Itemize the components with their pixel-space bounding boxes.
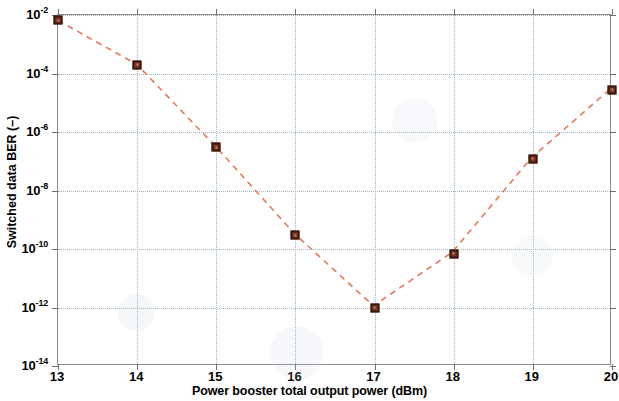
marker-core [136,64,138,66]
y-axis-tick-label: 10-4 [26,65,48,80]
y-axis-tick-right [610,249,616,250]
marker-core [611,89,613,91]
data-point-marker [528,154,537,163]
y-axis-tick-label: 10-14 [22,358,48,373]
y-axis-tick-label: 10-10 [22,241,48,256]
x-axis-tick-label: 17 [366,369,380,384]
chart-figure: 10-210-410-610-810-1010-1210-14 13141516… [0,0,619,401]
x-axis-tick-label: 14 [129,369,143,384]
y-axis-title: Switched data BER (–) [5,22,19,342]
y-axis-tick-right [610,366,616,367]
x-axis-tick-label: 18 [445,369,459,384]
y-axis-tick-label: 10-12 [22,299,48,314]
data-point-marker [370,303,379,312]
x-axis-tick-top [612,9,613,15]
plot-area [57,14,611,365]
y-axis-tick-right [610,191,616,192]
y-axis-tick-right [610,308,616,309]
y-axis-tick-label: 10-8 [26,182,48,197]
x-axis-title: Power booster total output power (dBm) [0,384,619,398]
x-axis-tick-label: 20 [604,369,618,384]
data-point-marker [54,16,63,25]
y-axis-tick-label: 10-6 [26,124,48,139]
y-axis-tick-right [610,74,616,75]
x-axis-tick-label: 13 [50,369,64,384]
x-axis-tick-label: 19 [525,369,539,384]
x-axis-tick-label: 15 [208,369,222,384]
marker-core [57,19,59,21]
y-axis-tick-label: 10-2 [26,7,48,22]
marker-core [215,146,217,148]
data-point-marker [212,143,221,152]
data-point-marker [608,85,617,94]
marker-core [453,253,455,255]
marker-core [532,158,534,160]
data-point-marker [449,249,458,258]
data-point-marker [133,60,142,69]
y-axis-title-wrapper: Switched data BER (–) [2,0,24,401]
marker-core [294,234,296,236]
y-axis-tick-right [610,132,616,133]
marker-core [374,307,376,309]
data-point-marker [291,231,300,240]
y-axis-tick-right [610,15,616,16]
x-axis-tick-label: 16 [287,369,301,384]
